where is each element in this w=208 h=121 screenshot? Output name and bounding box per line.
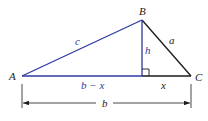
x-label: x [160,79,166,91]
vertex-b-label: B [139,5,146,17]
vertex-c-label: C [195,71,203,83]
side-a-label: a [169,34,175,46]
right-angle-marker [142,69,149,76]
height-label: h [145,44,151,56]
b-label: b [102,97,108,109]
b-minus-x-label: b − x [81,79,104,91]
vertex-a-label: A [8,70,16,82]
triangle-diagram: A B C c a h b − x x b [0,0,208,121]
side-c [22,20,142,76]
side-c-label: c [75,35,80,47]
